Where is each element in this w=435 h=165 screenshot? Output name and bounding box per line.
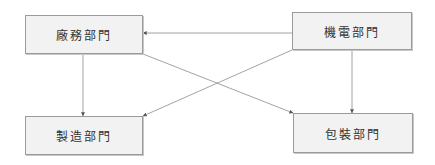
node-manufacturing-department[interactable]: 製造部門: [25, 116, 143, 155]
node-electromechanical-department[interactable]: 機電部門: [292, 12, 412, 50]
edge-facility-to-pack: [143, 54, 293, 113]
node-label: 包裝部門: [325, 125, 381, 142]
edge-mech-to-mfg: [143, 50, 292, 116]
node-label: 機電部門: [324, 23, 380, 40]
node-packaging-department[interactable]: 包裝部門: [293, 113, 413, 153]
node-label: 製造部門: [56, 127, 112, 144]
node-facility-department[interactable]: 廠務部門: [25, 15, 143, 54]
node-label: 廠務部門: [56, 26, 112, 43]
